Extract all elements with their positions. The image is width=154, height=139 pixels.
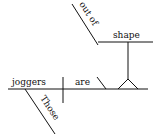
sentence-diagram: joggers are shape out of Those — [0, 0, 154, 139]
pedestal-left-leg — [118, 79, 128, 89]
verb-word: are — [75, 77, 90, 87]
modifier-word: Those — [38, 94, 61, 122]
pedestal-right-leg — [128, 79, 138, 89]
complement-slash — [97, 77, 106, 89]
preposition-word: out of — [77, 0, 100, 28]
subject-word: joggers — [11, 77, 46, 87]
complement-word: shape — [113, 30, 140, 40]
